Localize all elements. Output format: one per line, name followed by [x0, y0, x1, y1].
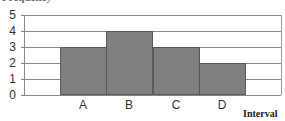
y-tick-label-3: 3	[4, 41, 16, 53]
y-tick-label-4: 4	[4, 25, 16, 37]
x-tick-label-d: D	[199, 98, 245, 112]
y-tick	[21, 95, 24, 96]
x-axis-title: Interval	[243, 108, 277, 119]
x-tick-label-a: A	[60, 98, 106, 112]
y-tick	[21, 31, 24, 32]
bar-a	[60, 47, 107, 95]
y-axis	[24, 15, 25, 96]
bar-b	[106, 31, 153, 95]
bar-d	[199, 63, 246, 95]
y-tick-label-0: 0	[4, 89, 16, 101]
x-tick-label-c: C	[153, 98, 199, 112]
y-tick	[21, 15, 24, 16]
y-tick	[21, 63, 24, 64]
plot-area	[24, 15, 282, 95]
y-tick	[21, 79, 24, 80]
x-tick-label-b: B	[106, 98, 152, 112]
gridline-0	[24, 95, 281, 96]
y-tick-label-1: 1	[4, 73, 16, 85]
gridline-5	[24, 15, 281, 16]
y-tick	[21, 47, 24, 48]
y-tick-label-2: 2	[4, 57, 16, 69]
y-tick-label-5: 5	[4, 9, 16, 21]
bar-c	[153, 47, 200, 95]
y-axis-title: Frequency	[2, 0, 52, 3]
